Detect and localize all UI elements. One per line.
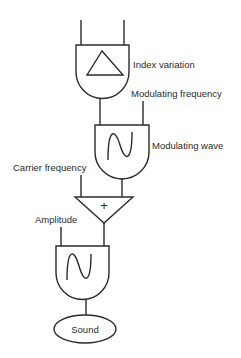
carrier-frequency-label: Carrier frequency	[13, 162, 87, 173]
adder-unit: +	[75, 197, 133, 223]
fm-synthesis-diagram: Index variation Modulating frequency Mod…	[0, 0, 241, 358]
modulating-frequency-label: Modulating frequency	[131, 88, 222, 99]
sound-label: Sound	[71, 324, 98, 335]
modulator-unit	[95, 125, 149, 179]
amplitude-label: Amplitude	[35, 214, 77, 225]
envelope-unit	[76, 20, 129, 99]
index-variation-label: Index variation	[133, 59, 195, 70]
plus-icon: +	[100, 198, 108, 213]
sound-output: Sound	[54, 315, 116, 343]
carrier-unit-body	[56, 246, 109, 300]
modulating-wave-label: Modulating wave	[152, 140, 223, 151]
carrier-unit	[56, 246, 109, 300]
